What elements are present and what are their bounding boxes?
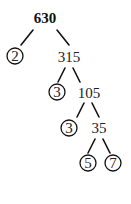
edge-105-35 — [92, 103, 99, 117]
node-630: 630 — [34, 10, 57, 26]
node-315: 315 — [58, 49, 81, 65]
node-2: 2 — [11, 48, 19, 64]
node-35: 35 — [92, 120, 107, 136]
node-3b: 3 — [65, 120, 73, 136]
node-7: 7 — [109, 155, 117, 171]
node-5: 5 — [84, 155, 92, 171]
node-3a: 3 — [53, 84, 61, 100]
edge-315-105 — [73, 68, 80, 82]
prime-rings — [7, 48, 121, 171]
edge-315-3 — [58, 68, 65, 82]
factor-tree-diagram: 630 2 315 3 105 3 35 5 7 — [0, 0, 131, 204]
node-105: 105 — [78, 85, 101, 101]
edge-630-2 — [21, 30, 33, 45]
edge-105-3 — [77, 103, 84, 117]
edge-35-5 — [88, 139, 95, 153]
edge-35-7 — [103, 139, 110, 153]
edge-630-315 — [57, 30, 69, 45]
